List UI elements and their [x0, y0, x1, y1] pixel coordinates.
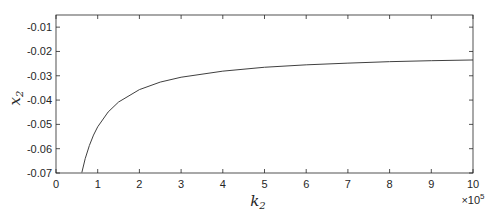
y-axis-label: x2 [6, 91, 25, 106]
y-tick-label: -0.06 [27, 143, 52, 155]
x-tick-label: 3 [178, 178, 184, 190]
x-multiplier-exponent: 5 [480, 192, 485, 201]
x-axis-label-subscript: 2 [258, 200, 265, 211]
x-tick-label: 2 [136, 178, 142, 190]
x-axis-multiplier: ×105 [461, 192, 485, 206]
x-axis-label-main: k [250, 192, 259, 210]
x-tick-label: 8 [387, 178, 393, 190]
x-axis-label: k2 [250, 192, 265, 211]
x-tick-label: 7 [345, 178, 351, 190]
x-tick-label: 5 [261, 178, 267, 190]
x-tick-label: 6 [303, 178, 309, 190]
x-tick-label: 10 [467, 178, 479, 190]
x-multiplier-base: ×10 [461, 194, 480, 206]
y-tick-label: -0.05 [27, 118, 52, 130]
line-chart: 012345678910 -0.07-0.06-0.05-0.04-0.03-0… [0, 0, 493, 219]
y-tick-label: -0.01 [27, 21, 52, 33]
x-tick-label: 4 [220, 178, 226, 190]
x-tick-label: 9 [428, 178, 434, 190]
y-tick-label: -0.07 [27, 167, 52, 179]
x-tick-label: 0 [53, 178, 59, 190]
x-tick-label: 1 [95, 178, 101, 190]
y-tick-label: -0.03 [27, 70, 52, 82]
plot-area [56, 15, 473, 173]
y-axis-label-subscript: 2 [14, 91, 25, 98]
y-tick-label: -0.04 [27, 94, 52, 106]
y-tick-label: -0.02 [27, 45, 52, 57]
